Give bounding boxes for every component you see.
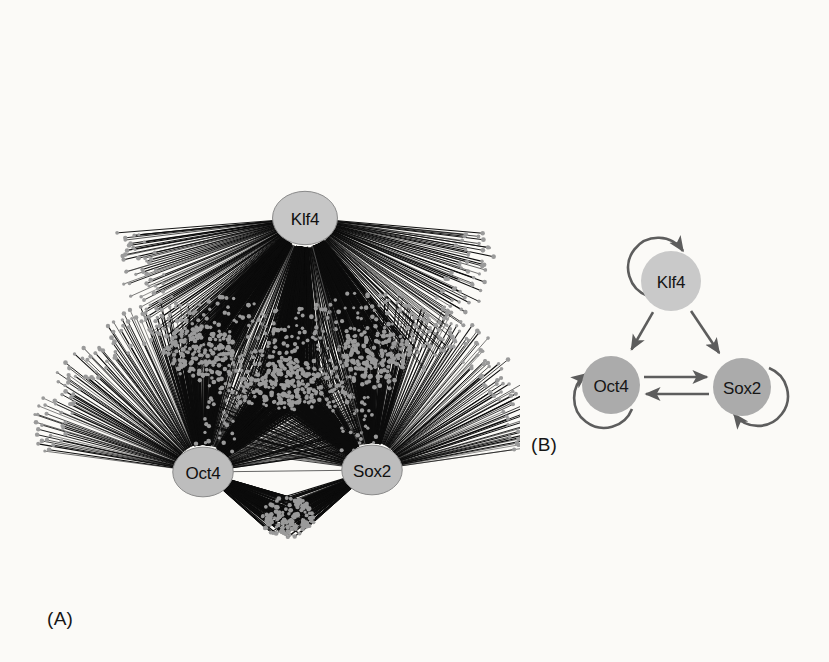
target-node [147,315,151,319]
target-node [301,326,304,329]
shared-target-node [400,342,404,346]
target-node [144,272,149,277]
target-node [260,353,264,357]
shared-target-node [393,357,397,361]
shared-target-node [338,360,342,364]
target-node [218,387,222,391]
target-node [235,404,239,408]
target-node [463,247,467,251]
shared-target-node [176,367,180,371]
target-node [399,323,402,326]
target-node [420,333,424,337]
target-node [438,337,442,341]
target-node [311,335,315,339]
shared-target-node [349,353,352,356]
shared-target-node [287,385,291,389]
target-node [227,312,231,316]
shared-target-node [276,402,279,405]
target-node [359,437,363,441]
shared-target-node [286,371,291,376]
shared-target-node [230,357,233,360]
target-node [477,242,481,246]
target-node [265,404,268,407]
target-node [128,344,132,348]
shared-target-node [297,532,301,536]
target-node [360,408,364,412]
shared-target-node [210,332,215,337]
target-node [317,397,322,402]
target-node [434,296,438,300]
arrow-klf4-to-oct4[interactable] [631,312,653,349]
target-node [445,324,449,328]
target-node [463,342,467,346]
shared-target-node [269,530,273,534]
shared-target-node [368,374,373,379]
shared-target-node [171,342,174,345]
target-node [370,314,375,319]
shared-target-node [308,516,312,520]
target-node [187,311,191,315]
target-node [448,344,453,349]
target-node [122,311,126,315]
target-node [149,303,152,306]
arrow-klf4-to-sox2[interactable] [691,311,719,353]
target-node [475,328,480,333]
hub-label-klf4: Klf4 [291,210,320,229]
target-node [56,371,59,374]
target-node [233,437,236,440]
target-node [61,426,65,430]
target-node [294,316,297,319]
shared-target-node [170,336,175,341]
shared-target-node [287,358,290,361]
shared-target-node [304,361,309,366]
shared-target-node [264,384,268,388]
target-node [484,359,487,362]
shared-target-node [400,339,404,343]
target-node [243,399,247,403]
shared-target-node [401,355,405,359]
shared-target-node [192,368,195,371]
target-node [139,295,143,299]
target-node [155,325,158,328]
target-node [205,317,209,321]
target-node [386,379,391,384]
target-node [335,374,339,378]
target-node [143,256,147,260]
shared-target-node [350,347,353,350]
target-node [243,395,247,399]
target-node [33,413,36,416]
target-node [216,377,221,382]
shared-target-node [281,386,284,389]
target-node [333,387,336,390]
target-node [360,400,364,404]
target-node [406,326,411,331]
target-node [40,423,44,427]
target-node [202,343,205,346]
target-node [67,366,72,371]
shared-target-node [256,372,261,377]
target-node [257,317,262,322]
target-node [213,321,217,325]
target-node [344,306,347,309]
target-node [242,389,246,393]
shared-target-node [227,352,230,355]
shared-target-node [345,334,350,339]
shared-target-node [301,379,304,382]
target-node [479,289,482,292]
shared-target-node [314,374,318,378]
target-node [125,248,130,253]
shared-target-node [210,370,214,374]
target-node [333,404,337,408]
target-node [210,398,213,401]
shared-target-node [256,378,260,382]
target-node [68,402,72,406]
target-node [145,308,149,312]
target-node [147,327,152,332]
shared-target-node [258,390,263,395]
shared-target-node [287,394,291,398]
target-node [340,448,344,452]
target-node [216,322,221,327]
target-node [45,438,49,442]
target-node [303,400,307,404]
target-node [351,376,355,380]
